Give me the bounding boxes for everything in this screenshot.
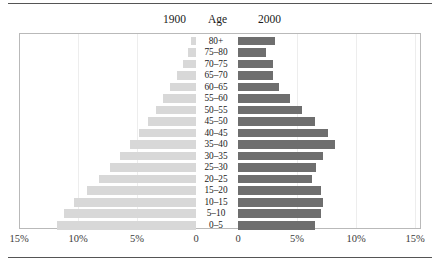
- bar-1900: [110, 163, 196, 172]
- x-axis-tick-label: 15%: [405, 232, 424, 246]
- plot-area: 80+75–8070–7565–7060–6555–6050–5545–5040…: [19, 33, 421, 229]
- age-band-label: 55–60: [196, 92, 236, 104]
- legend-label-1900: 1900: [163, 11, 186, 27]
- age-band-label: 80+: [196, 35, 236, 47]
- bar-2000: [238, 71, 273, 80]
- x-axis-tick-label: 0: [235, 232, 240, 246]
- bar-2000: [238, 37, 275, 46]
- age-band-label: 25–30: [196, 161, 236, 173]
- bar-2000: [238, 129, 328, 138]
- bar-1900: [177, 71, 196, 80]
- pyramid-row: 0–5: [20, 220, 420, 231]
- age-band-label: 75–80: [196, 46, 236, 58]
- age-band-label: 65–70: [196, 69, 236, 81]
- bottom-divider: [8, 257, 432, 258]
- bar-2000: [238, 163, 316, 172]
- age-band-label: 35–40: [196, 138, 236, 150]
- bar-2000: [238, 106, 302, 115]
- bar-1900: [130, 140, 196, 149]
- age-band-label: 5–10: [196, 207, 236, 219]
- x-axis-tick-label: 10%: [68, 232, 87, 246]
- bar-2000: [238, 209, 321, 218]
- x-axis: 15%10%5%005%10%15%: [0, 232, 440, 248]
- bar-2000: [238, 152, 323, 161]
- x-axis-tick-label: 5%: [130, 232, 144, 246]
- bar-2000: [238, 48, 266, 57]
- bar-1900: [163, 94, 196, 103]
- bar-1900: [74, 198, 196, 207]
- age-band-label: 0–5: [196, 219, 236, 231]
- x-axis-tick-label: 10%: [346, 232, 365, 246]
- legend-label-2000: 2000: [258, 11, 281, 27]
- bar-2000: [238, 175, 312, 184]
- x-axis-tick-label: 15%: [9, 232, 28, 246]
- bar-1900: [148, 117, 196, 126]
- age-band-label: 60–65: [196, 81, 236, 93]
- bar-1900: [139, 129, 196, 138]
- bar-2000: [238, 186, 321, 195]
- age-band-label: 50–55: [196, 104, 236, 116]
- bar-2000: [238, 83, 279, 92]
- pyramid-rows: 80+75–8070–7565–7060–6555–6050–5545–5040…: [20, 34, 420, 228]
- bar-2000: [238, 117, 315, 126]
- bar-1900: [156, 106, 196, 115]
- bar-2000: [238, 94, 290, 103]
- age-band-label: 10–15: [196, 196, 236, 208]
- bar-2000: [238, 60, 273, 69]
- bar-2000: [238, 221, 315, 230]
- bar-1900: [120, 152, 196, 161]
- bar-1900: [57, 221, 196, 230]
- age-band-label: 40–45: [196, 127, 236, 139]
- bar-2000: [238, 140, 335, 149]
- bar-1900: [188, 48, 196, 57]
- x-axis-tick-label: 5%: [290, 232, 304, 246]
- bar-1900: [183, 60, 196, 69]
- age-band-label: 20–25: [196, 173, 236, 185]
- age-band-label: 15–20: [196, 184, 236, 196]
- bar-1900: [87, 186, 196, 195]
- chart-header: 1900 Age 2000: [0, 11, 440, 27]
- bar-2000: [238, 198, 323, 207]
- bar-1900: [99, 175, 196, 184]
- bar-1900: [64, 209, 196, 218]
- age-band-label: 30–35: [196, 150, 236, 162]
- axis-title-age: Age: [208, 11, 227, 27]
- age-band-label: 45–50: [196, 115, 236, 127]
- age-band-label: 70–75: [196, 58, 236, 70]
- x-axis-tick-label: 0: [193, 232, 198, 246]
- bar-1900: [170, 83, 196, 92]
- top-divider: [8, 3, 432, 4]
